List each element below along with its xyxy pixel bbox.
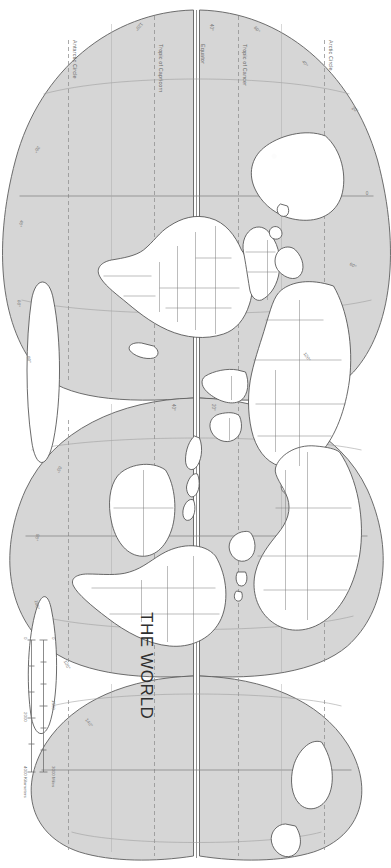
lon-label-bottom-80: 80° xyxy=(25,356,31,364)
map-title: THE WORLD xyxy=(135,612,155,719)
lon-label-mid-20: 20° xyxy=(210,404,215,411)
lon-label-left-40: 40° xyxy=(208,24,213,31)
lon-label-bottom-60: 60° xyxy=(16,300,22,307)
scale-miles-unit: 3000 Miles xyxy=(50,766,55,787)
label-antarctic-circle: Antarctic Circle xyxy=(71,40,77,79)
scale-miles-tick-1500: 1500 xyxy=(50,700,55,710)
label-equator: Equator xyxy=(199,44,205,64)
lon-label-top-0: 0 xyxy=(365,191,368,196)
world-map-sheet: Arctic Circle Tropic of Cancer Equator T… xyxy=(0,0,391,868)
label-tropic-of-cancer: Tropic of Cancer xyxy=(241,44,247,86)
scale-km-tick-2000: 2000 xyxy=(22,712,27,722)
land-british-isles xyxy=(269,227,282,240)
world-map-graphic xyxy=(0,0,391,868)
map-sheet-page: Arctic Circle Tropic of Cancer Equator T… xyxy=(0,0,391,868)
scale-km-tick-0: 0 xyxy=(22,637,27,639)
lon-label-mid-80: 80° xyxy=(33,533,40,541)
scale-km-unit: 4000 Kilometers xyxy=(22,766,27,798)
label-tropic-of-capricorn: Tropic of Capricorn xyxy=(157,44,163,93)
scale-miles-tick-0: 0 xyxy=(50,637,55,639)
label-arctic-circle: Arctic Circle xyxy=(327,40,333,71)
lon-label-mid-40: 40° xyxy=(170,404,175,411)
